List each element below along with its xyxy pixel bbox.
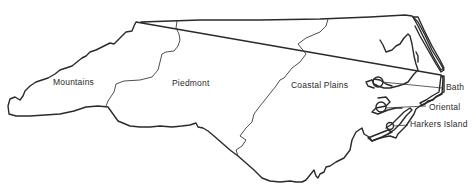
mountains-piedmont-divider	[106, 21, 180, 106]
region-label-piedmont: Piedmont	[172, 79, 210, 88]
north-carolina-map	[0, 0, 476, 194]
place-label-harkers-island: Harkers Island	[410, 120, 468, 129]
outer-banks-south	[420, 76, 444, 105]
place-label-bath: Bath	[446, 83, 464, 92]
place-label-oriental: Oriental	[429, 103, 460, 112]
region-label-coastal-plains: Coastal Plains	[291, 81, 348, 90]
oriental-leader-line	[385, 106, 426, 108]
region-label-mountains: Mountains	[53, 78, 94, 87]
